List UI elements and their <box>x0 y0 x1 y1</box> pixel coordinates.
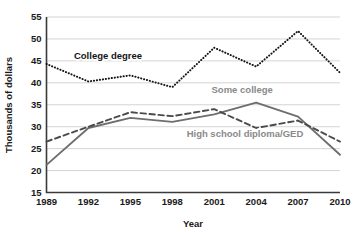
y-axis-tick-labels: 152025303540455055 <box>31 11 42 198</box>
y-tick-label: 35 <box>31 99 42 110</box>
y-tick-label: 55 <box>31 11 42 22</box>
y-axis-title: Thousands of dollars <box>3 57 14 153</box>
x-tick-label: 2007 <box>288 196 309 207</box>
y-tick-label: 25 <box>31 143 42 154</box>
x-tick-label: 1989 <box>36 196 57 207</box>
x-tick-label: 1992 <box>78 196 99 207</box>
series-label: High school diploma/GED <box>187 128 304 139</box>
series-label: College degree <box>74 50 142 61</box>
x-tick-label: 2004 <box>246 196 268 207</box>
y-tick-label: 50 <box>31 33 42 44</box>
chart-canvas: 152025303540455055 198919921995199820012… <box>0 0 353 232</box>
y-tick-label: 30 <box>31 121 42 132</box>
x-tick-label: 1998 <box>162 196 183 207</box>
x-tick-label: 2010 <box>329 196 350 207</box>
y-tick-label: 40 <box>31 77 42 88</box>
y-tick-label: 20 <box>31 165 42 176</box>
y-tick-label: 45 <box>31 55 42 66</box>
x-tick-label: 1995 <box>120 196 142 207</box>
x-axis-title: Year <box>183 218 203 229</box>
series-label: Some college <box>212 84 273 95</box>
line-chart-figure: 152025303540455055 198919921995199820012… <box>0 0 353 232</box>
x-tick-label: 2001 <box>204 196 226 207</box>
